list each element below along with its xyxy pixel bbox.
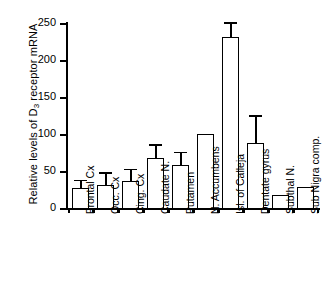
y-axis-tick-mark xyxy=(60,171,66,173)
x-axis-category-label: Caudate N. xyxy=(160,161,171,214)
error-bar-stem xyxy=(105,174,107,185)
chart-figure: Relative levels of D3 receptor mRNA 0501… xyxy=(0,0,324,308)
error-bar-cap xyxy=(174,152,187,154)
y-axis-title: Relative levels of D3 receptor mRNA xyxy=(27,9,39,219)
x-axis-category-label: Isl. of Calleja xyxy=(235,154,246,214)
error-bar-stem xyxy=(255,117,257,143)
x-axis-category-label: Putamen xyxy=(185,172,196,214)
y-axis-tick-mark xyxy=(60,23,66,25)
y-axis-tick-label: 100 xyxy=(20,128,56,139)
y-axis-title-subscript: 3 xyxy=(32,104,41,109)
error-bar-stem xyxy=(230,24,232,37)
error-bar-stem xyxy=(155,146,157,158)
x-axis-category-label: Cing. Cx xyxy=(135,174,146,214)
x-axis-category-label: Subthal N. xyxy=(285,165,296,214)
x-axis-category-label: Sub Nigra comp. xyxy=(310,136,321,214)
y-axis-tick-label: 250 xyxy=(20,17,56,28)
y-axis-title-prefix: Relative levels of D xyxy=(27,108,39,204)
error-bar-stem xyxy=(130,170,132,180)
x-axis-category-label: N. Accumbens xyxy=(210,146,221,214)
y-axis-tick-mark xyxy=(60,60,66,62)
error-bar-cap xyxy=(224,22,237,24)
y-axis-tick-label: 200 xyxy=(20,54,56,65)
y-axis-tick-mark xyxy=(60,97,66,99)
x-axis-category-label: Dentate gyrus xyxy=(260,149,271,214)
error-bar-cap xyxy=(99,172,112,174)
error-bar-stem xyxy=(80,181,82,188)
error-bar-stem xyxy=(180,153,182,165)
y-axis-tick-label: 50 xyxy=(20,165,56,176)
x-axis-tick-mark xyxy=(68,208,70,213)
y-axis-tick-label: 150 xyxy=(20,91,56,102)
y-axis-tick-label: 0 xyxy=(20,202,56,213)
error-bar-cap xyxy=(249,115,262,117)
error-bar-cap xyxy=(124,169,137,171)
error-bar-cap xyxy=(149,144,162,146)
y-axis-tick-mark xyxy=(60,134,66,136)
x-axis-category-label: Frontal Cx xyxy=(85,166,96,214)
x-axis-category-label: Occ. Cx xyxy=(110,177,121,214)
y-axis-line xyxy=(66,22,68,209)
y-axis-tick-mark xyxy=(60,208,66,210)
